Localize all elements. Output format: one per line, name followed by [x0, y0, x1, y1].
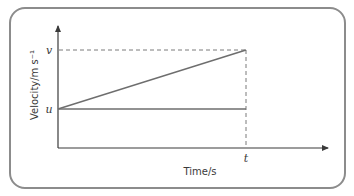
y-axis-label: Velocity/m s⁻¹ — [29, 50, 40, 120]
t-label: t — [244, 152, 249, 165]
diagram-frame — [10, 8, 345, 188]
u-label: u — [45, 103, 52, 116]
velocity-time-diagram: v u t Time/s Velocity/m s⁻¹ — [0, 0, 354, 196]
x-axis-label: Time/s — [182, 166, 216, 177]
v-label: v — [46, 44, 53, 57]
acceleration-line — [58, 50, 246, 109]
